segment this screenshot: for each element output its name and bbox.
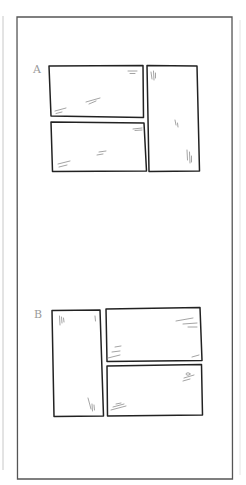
panel-a-top-left bbox=[49, 66, 144, 118]
panel-a-bottom-left bbox=[51, 122, 147, 172]
layout-a-label: A bbox=[33, 64, 41, 75]
layout-b-label: B bbox=[34, 309, 42, 320]
panel-b-bottom-right bbox=[107, 365, 203, 417]
panel-b-top-right bbox=[106, 308, 202, 362]
panel-b-left bbox=[52, 310, 104, 417]
